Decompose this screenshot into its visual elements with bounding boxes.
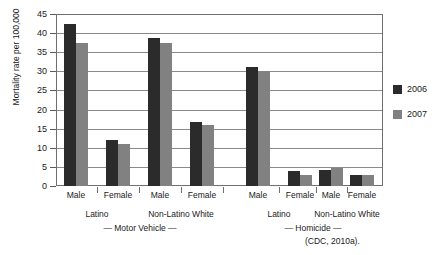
- x-tick-label: Male: [322, 190, 340, 200]
- x-group-label: Non-Latino White: [148, 209, 214, 219]
- gridline: [57, 71, 382, 72]
- y-tick-mark: [50, 14, 56, 15]
- legend: 2006 2007: [393, 84, 427, 134]
- bar: [106, 140, 118, 186]
- y-tick-label: 5: [42, 162, 47, 172]
- bar: [350, 175, 362, 186]
- x-axis-separator: [347, 187, 348, 193]
- x-tick-label: Female: [104, 190, 132, 200]
- gridline: [57, 110, 382, 111]
- x-axis-separator: [139, 187, 140, 193]
- bar: [319, 170, 331, 186]
- legend-label-2007: 2007: [407, 109, 427, 119]
- bar: [331, 168, 343, 186]
- bar: [258, 71, 270, 186]
- x-tick-label: Male: [67, 190, 85, 200]
- bar: [160, 43, 172, 186]
- gridline: [57, 52, 382, 53]
- y-tick-label: 45: [37, 9, 47, 19]
- x-section-label: — Homicide —: [284, 223, 341, 233]
- x-axis-separator: [223, 187, 224, 193]
- gridline: [57, 33, 382, 34]
- bar: [246, 67, 258, 186]
- y-tick-label: 35: [37, 47, 47, 57]
- x-tick-label: Male: [249, 190, 267, 200]
- y-tick-mark: [50, 110, 56, 111]
- chart-container: Mortality rate per 100,000 0510152025303…: [0, 0, 440, 255]
- legend-item-2006[interactable]: 2006: [393, 84, 427, 94]
- bar: [148, 38, 160, 186]
- x-tick-label: Female: [348, 190, 376, 200]
- bar: [202, 125, 214, 186]
- bar: [362, 175, 374, 186]
- y-tick-mark: [50, 90, 56, 91]
- legend-swatch-2006: [393, 85, 402, 94]
- y-tick-label: 20: [37, 105, 47, 115]
- bar: [64, 24, 76, 186]
- y-tick-label: 25: [37, 85, 47, 95]
- bar: [118, 144, 130, 186]
- bar: [300, 175, 312, 186]
- y-tick-mark: [50, 52, 56, 53]
- y-tick-mark: [50, 33, 56, 34]
- x-axis-separator: [279, 187, 280, 193]
- x-tick-label: Male: [151, 190, 169, 200]
- x-tick-label: Female: [188, 190, 216, 200]
- y-tick-label: 15: [37, 124, 47, 134]
- y-axis-title: Mortality rate per 100,000: [11, 0, 21, 137]
- x-axis-separator: [181, 187, 182, 193]
- y-tick-mark: [50, 71, 56, 72]
- y-tick-mark: [50, 148, 56, 149]
- legend-label-2006: 2006: [407, 84, 427, 94]
- x-axis-separator: [316, 187, 317, 193]
- y-tick-mark: [50, 129, 56, 130]
- legend-swatch-2007: [393, 110, 402, 119]
- y-tick-label: 30: [37, 66, 47, 76]
- bar: [288, 171, 300, 186]
- x-tick-label: Female: [286, 190, 314, 200]
- y-tick-mark: [50, 186, 56, 187]
- bar: [76, 43, 88, 186]
- legend-item-2007[interactable]: 2007: [393, 109, 427, 119]
- y-tick-mark: [50, 167, 56, 168]
- bar: [190, 122, 202, 186]
- y-tick-label: 40: [37, 28, 47, 38]
- y-tick-label: 10: [37, 143, 47, 153]
- gridline: [57, 129, 382, 130]
- source-citation: (CDC, 2010a).: [305, 236, 360, 246]
- x-section-label: — Motor Vehicle —: [103, 223, 176, 233]
- x-group-label: Latino: [267, 209, 290, 219]
- x-group-label: Non-Latino White: [314, 209, 380, 219]
- x-axis-separator: [97, 187, 98, 193]
- x-group-label: Latino: [85, 209, 108, 219]
- y-tick-label: 0: [42, 181, 47, 191]
- gridline: [57, 90, 382, 91]
